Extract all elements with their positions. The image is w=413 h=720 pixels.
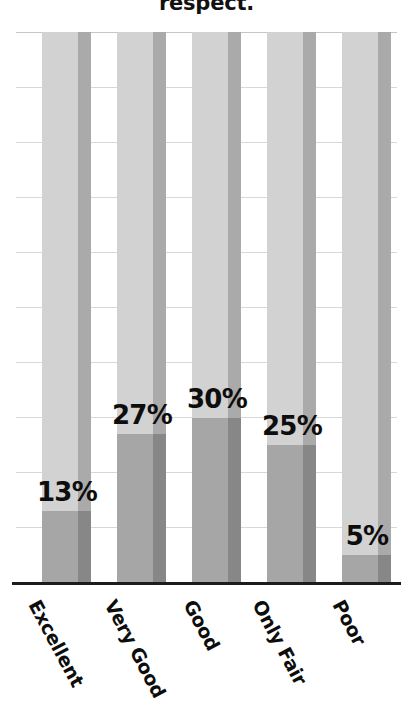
data-bar[interactable]	[342, 555, 378, 583]
data-bar[interactable]	[267, 445, 303, 583]
bar-value-label: 5%	[329, 521, 405, 551]
background-column-edge	[378, 32, 391, 583]
plot-area: 13% 27% 30% 25%	[16, 32, 397, 583]
tick-label-only-fair: Only Fair	[249, 596, 312, 688]
data-bar-edge	[78, 511, 91, 583]
bar-chart: respect. 13% 27%	[0, 0, 413, 720]
bar-value-label: 13%	[29, 477, 105, 507]
data-bar-edge	[378, 555, 391, 583]
chart-title: respect.	[0, 0, 413, 15]
category-axis-line	[12, 582, 401, 585]
data-bar-edge	[228, 418, 241, 583]
tick-label-poor: Poor	[329, 596, 371, 649]
data-bar[interactable]	[117, 434, 153, 583]
background-column	[342, 32, 378, 583]
tick-label-excellent: Excellent	[25, 596, 89, 690]
tick-label-good: Good	[180, 596, 225, 654]
bar-value-label: 30%	[179, 384, 255, 414]
bar-value-label: 25%	[254, 411, 330, 441]
data-bar-edge	[153, 434, 166, 583]
tick-label-very-good: Very Good	[101, 596, 171, 701]
data-bar-edge	[303, 445, 316, 583]
data-bar[interactable]	[192, 418, 228, 583]
data-bar[interactable]	[42, 511, 78, 583]
bar-value-label: 27%	[104, 400, 180, 430]
